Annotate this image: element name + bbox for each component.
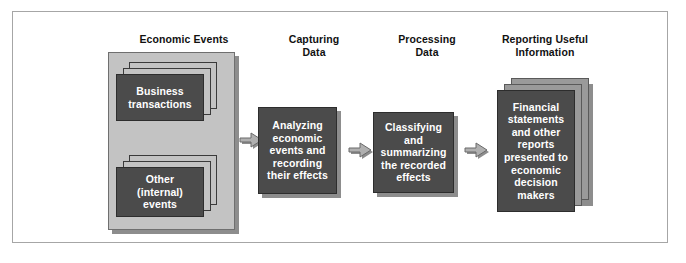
other-internal-events-label: Other (internal) events xyxy=(117,173,203,211)
process-flow-diagram: Economic Events Capturing Data Processin… xyxy=(0,0,686,263)
heading-reporting-useful-information: Reporting Useful Information xyxy=(465,33,625,59)
business-transactions-card: Business transactions xyxy=(116,74,204,121)
capturing-data-box: Analyzing economic events and recording … xyxy=(258,107,337,194)
arrow-processing-to-reporting xyxy=(462,138,490,162)
arrow-capturing-to-processing xyxy=(346,138,374,162)
other-internal-events-card: Other (internal) events xyxy=(116,167,204,217)
business-transactions-label: Business transactions xyxy=(117,85,203,110)
financial-statements-label: Financial statements and other reports p… xyxy=(498,101,574,202)
financial-statements-card: Financial statements and other reports p… xyxy=(497,90,575,212)
processing-data-box: Classifying and summarizing the recorded… xyxy=(373,112,454,193)
heading-economic-events: Economic Events xyxy=(108,33,260,46)
heading-capturing-data: Capturing Data xyxy=(253,33,375,59)
diagram-frame: Economic Events Capturing Data Processin… xyxy=(12,11,668,243)
capturing-data-box-label: Analyzing economic events and recording … xyxy=(259,119,336,182)
processing-data-box-label: Classifying and summarizing the recorded… xyxy=(374,121,453,184)
